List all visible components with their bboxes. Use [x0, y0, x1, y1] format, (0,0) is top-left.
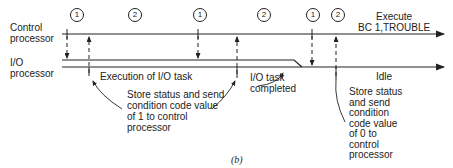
io-busy-line — [62, 60, 302, 67]
idle-label: Idle — [376, 71, 392, 82]
phase-2-marker: 2 — [128, 8, 142, 22]
phase-1-marker: 1 — [306, 8, 320, 22]
phase-2-marker: 2 — [257, 8, 271, 22]
timing-diagram: Control processor I/O processor 1 2 1 2 … — [0, 0, 453, 168]
execute-annotation: Execute BC 1,TROUBLE — [358, 11, 430, 33]
control-processor-label: Control processor — [10, 22, 54, 44]
store-status-cc0-note: Store status and send condition code val… — [349, 87, 402, 161]
execution-io-task-label: Execution of I/O task — [100, 71, 192, 82]
phase-1-marker: 1 — [193, 8, 207, 22]
store-status-cc1-note: Store status and send condition code val… — [127, 89, 224, 133]
phase-2-marker: 2 — [331, 8, 345, 22]
phase-1-marker: 1 — [70, 8, 84, 22]
figure-caption: (b) — [231, 154, 243, 165]
io-processor-label: I/O processor — [10, 57, 54, 79]
io-task-completed-label: I/O task completed — [250, 72, 296, 94]
